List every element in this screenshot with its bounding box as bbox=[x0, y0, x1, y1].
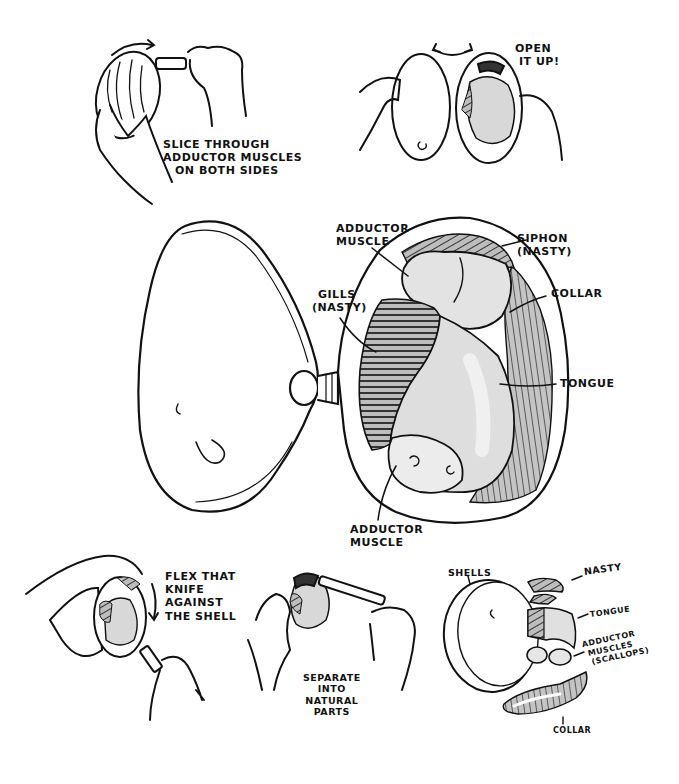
illustration-canvas bbox=[0, 0, 679, 784]
label-gills: Gills (nasty) bbox=[312, 288, 367, 314]
hand-icon bbox=[248, 594, 290, 690]
label-line: Collar bbox=[551, 287, 602, 300]
caption-line: Slice through bbox=[163, 138, 302, 151]
caption-line: against bbox=[165, 596, 236, 609]
label-line: (nasty) bbox=[312, 301, 367, 314]
caption-line: Open bbox=[515, 42, 559, 55]
step2-caption: Open it up! bbox=[515, 42, 559, 68]
label-adductor-muscle-bottom: Adductor muscle bbox=[350, 523, 423, 549]
caption-line: on both sides bbox=[163, 164, 302, 177]
step3-caption: Flex that knife against the shell bbox=[165, 570, 236, 623]
label-line: Gills bbox=[312, 288, 367, 301]
label-shells: Shells bbox=[448, 567, 491, 578]
knife-icon bbox=[139, 645, 162, 672]
label-collar: Collar bbox=[551, 287, 602, 300]
knife-icon bbox=[156, 58, 186, 69]
step1-illustration bbox=[87, 40, 246, 204]
label-line: Adductor bbox=[350, 523, 423, 536]
label-line: Shells bbox=[448, 567, 491, 578]
adductor-part-1 bbox=[527, 647, 547, 663]
hinge bbox=[290, 371, 318, 405]
caption-line: natural bbox=[303, 695, 361, 706]
step1-caption: Slice through adductor muscles on both s… bbox=[163, 138, 302, 178]
shell-left bbox=[392, 54, 450, 160]
adductor-part-2 bbox=[549, 649, 571, 665]
caption-line: Separate bbox=[303, 672, 361, 683]
label-line: Tongue bbox=[560, 377, 615, 390]
parts-illustration bbox=[438, 575, 588, 724]
anatomy-illustration bbox=[138, 218, 568, 523]
label-line: Collar bbox=[553, 726, 591, 736]
label-line: Adductor bbox=[336, 222, 409, 235]
label-tongue: Tongue bbox=[560, 377, 615, 390]
hand-icon bbox=[188, 47, 246, 126]
label-adductor-muscle-top: Adductor muscle bbox=[336, 222, 409, 248]
step4-caption: Separate into natural parts bbox=[303, 672, 361, 718]
label-line: (nasty) bbox=[517, 245, 572, 258]
nasty-part bbox=[528, 578, 563, 592]
caption-line: into bbox=[303, 683, 361, 694]
label-line: muscle bbox=[336, 235, 409, 248]
label-line: muscle bbox=[350, 536, 423, 549]
caption-line: the shell bbox=[165, 610, 236, 623]
caption-line: knife bbox=[165, 583, 236, 596]
caption-line: parts bbox=[303, 706, 361, 717]
label-line: Siphon bbox=[517, 232, 572, 245]
down-arrow-icon bbox=[152, 584, 156, 618]
caption-line: Flex that bbox=[165, 570, 236, 583]
label-siphon: Siphon (nasty) bbox=[517, 232, 572, 258]
caption-line: adductor muscles bbox=[163, 151, 302, 164]
label-collar-part: Collar bbox=[553, 726, 591, 736]
left-shell bbox=[138, 221, 318, 511]
caption-line: it up! bbox=[515, 55, 559, 68]
